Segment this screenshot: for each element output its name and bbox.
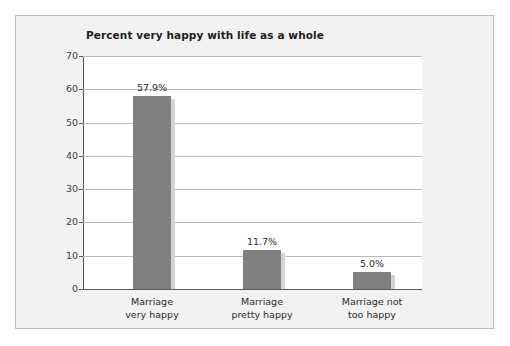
x-axis-category-label: Marriagepretty happy <box>202 296 322 321</box>
y-axis-tick-label: 50 <box>38 117 78 128</box>
y-axis-tick <box>79 189 83 190</box>
x-axis-category-label-line: Marriage <box>202 296 322 309</box>
x-axis-category-label-line: too happy <box>312 309 432 322</box>
y-axis-tick-label: 20 <box>38 216 78 227</box>
y-axis-tick <box>79 56 83 57</box>
x-axis-category-label-line: Marriage <box>92 296 212 309</box>
y-axis-tick-label: 70 <box>38 50 78 61</box>
bar-shadow <box>281 253 285 289</box>
y-axis-tick <box>79 256 83 257</box>
x-axis-category-label-line: very happy <box>92 309 212 322</box>
bar <box>243 250 281 289</box>
y-axis-tick-label: 30 <box>38 183 78 194</box>
y-axis-tick <box>79 222 83 223</box>
chart-figure: Percent very happy with life as a whole … <box>0 0 510 346</box>
gridline <box>83 56 422 57</box>
y-axis-tick-labels: 010203040506070 <box>34 0 78 346</box>
x-axis-category-label: Marriagevery happy <box>92 296 212 321</box>
bar-value-label: 5.0% <box>332 258 412 269</box>
bar-value-label: 11.7% <box>222 236 302 247</box>
x-axis-category-label: Marriage nottoo happy <box>312 296 432 321</box>
bar-shadow <box>171 99 175 289</box>
y-axis-tick <box>79 156 83 157</box>
y-axis-tick-label: 0 <box>38 283 78 294</box>
y-axis-tick <box>79 123 83 124</box>
bar <box>353 272 391 289</box>
x-axis-category-label-line: Marriage not <box>312 296 432 309</box>
gridline <box>83 289 422 290</box>
y-axis-tick-label: 40 <box>38 150 78 161</box>
bar <box>133 96 171 289</box>
y-axis-line <box>83 56 84 290</box>
y-axis-tick <box>79 89 83 90</box>
y-axis-tick-label: 10 <box>38 250 78 261</box>
y-axis-tick <box>79 289 83 290</box>
x-axis-category-label-line: pretty happy <box>202 309 322 322</box>
chart-title: Percent very happy with life as a whole <box>86 29 324 41</box>
y-axis-tick-label: 60 <box>38 83 78 94</box>
bar-shadow <box>391 275 395 289</box>
bar-value-label: 57.9% <box>112 82 192 93</box>
